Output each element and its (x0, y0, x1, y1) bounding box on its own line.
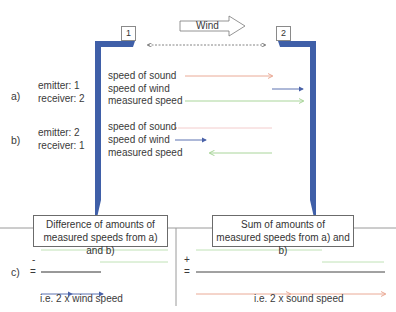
emitter-box-2: 2 (276, 26, 291, 41)
section-c-label: c) (11, 266, 20, 278)
sum-box: Sum of amounts of measured speeds from a… (212, 215, 354, 247)
difference-box: Difference of amounts of measured speeds… (33, 215, 168, 247)
a-row-wind: speed of wind (108, 83, 170, 95)
sum-box-line-2: measured speeds from a) and b) (213, 231, 353, 257)
emitter-box-1: 1 (121, 26, 136, 41)
section-b-label: b) (11, 134, 20, 146)
equals-sign-left: = (30, 266, 36, 278)
b-row-wind: speed of wind (108, 134, 170, 146)
difference-box-line-1: Difference of amounts of (34, 218, 167, 231)
section-b-receiver: receiver: 1 (38, 140, 85, 152)
diagram-canvas (0, 0, 396, 312)
section-a-emitter: emitter: 1 (38, 80, 80, 92)
section-a-receiver: receiver: 2 (38, 93, 85, 105)
wind-label: Wind (196, 20, 219, 32)
b-row-measured: measured speed (108, 147, 183, 159)
difference-box-line-2: measured speeds from a) and b) (34, 231, 167, 257)
section-a-label: a) (11, 90, 20, 102)
sum-result-text: i.e. 2 x sound speed (254, 293, 344, 305)
difference-result-text: i.e. 2 x wind speed (40, 293, 123, 305)
a-row-sound: speed of sound (108, 70, 176, 82)
sum-box-line-1: Sum of amounts of (213, 218, 353, 231)
equals-sign-right: = (184, 266, 190, 278)
plus-sign: + (184, 254, 190, 266)
section-b-emitter: emitter: 2 (38, 127, 80, 139)
right-wall (278, 41, 316, 222)
minus-sign: - (32, 254, 35, 266)
b-row-sound: speed of sound (108, 121, 176, 133)
a-row-measured: measured speed (108, 95, 183, 107)
